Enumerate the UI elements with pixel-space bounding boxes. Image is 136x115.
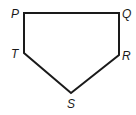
vertex-label-p: P <box>11 7 19 21</box>
pentagon-pqrst <box>24 13 119 93</box>
vertex-label-r: R <box>122 49 131 63</box>
vertex-label-q: Q <box>122 7 131 21</box>
pentagon-diagram: P Q R S T <box>0 0 136 115</box>
vertex-label-s: S <box>67 97 75 111</box>
vertex-label-t: T <box>11 47 20 61</box>
